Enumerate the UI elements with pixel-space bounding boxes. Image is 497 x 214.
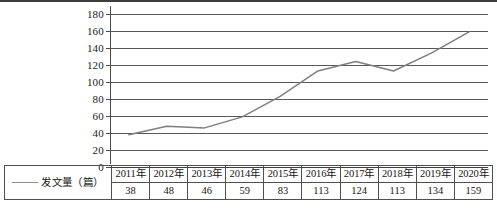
y-axis-tick-label: 120 — [66, 60, 104, 71]
table-header-year: 2016年 — [302, 166, 340, 183]
y-axis-tick-label: 20 — [66, 145, 104, 156]
y-axis-tick-label: 60 — [66, 111, 104, 122]
y-axis-tick-label: 100 — [66, 77, 104, 88]
y-axis: 180 160 140 120 100 80 60 40 20 0 — [66, 6, 104, 164]
table-cell-value: 46 — [188, 183, 226, 200]
y-axis-tick-label: 140 — [66, 43, 104, 54]
table-header-year: 2012年 — [150, 166, 188, 183]
table-header-year: 2017年 — [340, 166, 378, 183]
top-divider-rule — [0, 0, 497, 2]
table-header-year: 2018年 — [378, 166, 416, 183]
data-table: 发文量（篇） 2011年 2012年 2013年 2014年 2015年 201… — [4, 165, 493, 200]
plot-area — [110, 6, 488, 164]
table-header-year: 2015年 — [264, 166, 302, 183]
table-header-year: 2019年 — [416, 166, 454, 183]
legend-cell: 发文量（篇） — [5, 166, 112, 200]
table-header-year: 2013年 — [188, 166, 226, 183]
y-axis-tick-label: 160 — [66, 26, 104, 37]
table-row-header: 发文量（篇） 2011年 2012年 2013年 2014年 2015年 201… — [5, 166, 493, 183]
table-cell-value: 159 — [454, 183, 492, 200]
table-cell-value: 134 — [416, 183, 454, 200]
chart-figure: 180 160 140 120 100 80 60 40 20 0 — [0, 0, 497, 214]
table-cell-value: 48 — [150, 183, 188, 200]
table-header-year: 2020年 — [454, 166, 492, 183]
y-axis-tick-label: 80 — [66, 94, 104, 105]
table-cell-value: 83 — [264, 183, 302, 200]
line-chart: 180 160 140 120 100 80 60 40 20 0 — [0, 6, 497, 164]
line-marker-icon — [12, 182, 38, 183]
table-cell-value: 59 — [226, 183, 264, 200]
table-cell-value: 38 — [112, 183, 150, 200]
table-header-year: 2014年 — [226, 166, 264, 183]
table-cell-value: 113 — [378, 183, 416, 200]
table-cell-value: 124 — [340, 183, 378, 200]
table-header-year: 2011年 — [112, 166, 150, 183]
y-axis-tick-label: 40 — [66, 128, 104, 139]
y-axis-tick-label: 180 — [66, 9, 104, 20]
legend-label: 发文量（篇） — [41, 177, 103, 188]
table-cell-value: 113 — [302, 183, 340, 200]
series-line-publication-count — [110, 6, 488, 164]
